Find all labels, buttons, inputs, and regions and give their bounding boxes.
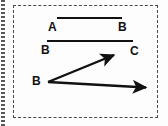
label-c: C (130, 45, 139, 57)
diagram-screenshot: A B B C B (0, 0, 168, 126)
arrow-upper (48, 55, 114, 82)
label-b-second-left: B (41, 44, 50, 56)
arrow-lower (48, 82, 146, 88)
label-a: A (48, 21, 57, 33)
vector-diagram-canvas (0, 0, 168, 126)
label-b-vertex: B (32, 75, 41, 87)
label-b-top-right: B (118, 21, 127, 33)
